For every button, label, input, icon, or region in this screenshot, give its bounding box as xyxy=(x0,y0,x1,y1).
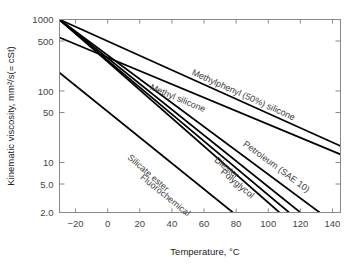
curve-labels-group: Methylphenyl (50%) siliconeMethyl silico… xyxy=(126,67,312,218)
y-axis-tick-labels: 100050010050105.02.0 xyxy=(32,14,53,218)
x-tick-label: −20 xyxy=(67,218,83,229)
y-tick-label: 5.0 xyxy=(40,179,53,190)
x-tick-label: 40 xyxy=(167,218,178,229)
kinematic-viscosity-chart: Methylphenyl (50%) siliconeMethyl silico… xyxy=(0,0,354,264)
x-axis-title: Temperature, °C xyxy=(170,246,239,257)
series-line: Diester xyxy=(60,20,301,213)
series-line: Methylphenyl (50%) silicone xyxy=(60,20,341,147)
curve-label-petroleum-sae-10: Petroleum (SAE 10) xyxy=(241,139,311,195)
y-tick-label: 500 xyxy=(38,36,54,47)
x-tick-label: 100 xyxy=(260,218,276,229)
chart-canvas: Methylphenyl (50%) siliconeMethyl silico… xyxy=(0,0,354,264)
x-axis-tick-labels: −20020406080100120140 xyxy=(67,218,340,229)
x-tick-label: 60 xyxy=(199,218,210,229)
x-tick-label: 80 xyxy=(231,218,242,229)
y-axis-title: Kinematic viscosity, mm²/s(= cSt) xyxy=(5,46,16,185)
x-tick-label: 120 xyxy=(292,218,308,229)
curve-label-fluorochemical: Fluorochemical xyxy=(139,172,193,218)
y-tick-label: 2.0 xyxy=(40,207,53,218)
y-tick-label: 100 xyxy=(38,86,54,97)
x-tick-label: 0 xyxy=(105,218,110,229)
y-tick-label: 1000 xyxy=(32,14,53,25)
x-tick-label: 140 xyxy=(325,218,341,229)
y-tick-label: 50 xyxy=(43,107,54,118)
y-tick-label: 10 xyxy=(43,157,54,168)
x-tick-label: 20 xyxy=(134,218,145,229)
